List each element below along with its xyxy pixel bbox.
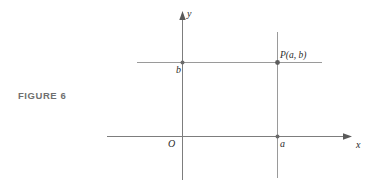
p-point-dot — [275, 60, 280, 65]
x-axis-arrowhead — [343, 133, 352, 139]
point-p-label: P(a, b) — [280, 50, 306, 60]
y-axis-label: y — [187, 9, 191, 19]
figure-container: FIGURE 6 y x O b a P(a, b) — [0, 0, 374, 190]
b-coordinate-label: b — [176, 65, 181, 75]
b-point-dot — [181, 61, 185, 65]
y-axis-arrowhead — [179, 11, 185, 20]
coordinate-plane-diagram — [0, 0, 374, 190]
x-axis-label: x — [356, 140, 360, 150]
origin-label: O — [168, 139, 175, 149]
a-coordinate-label: a — [280, 139, 285, 149]
a-point-dot — [276, 135, 280, 139]
